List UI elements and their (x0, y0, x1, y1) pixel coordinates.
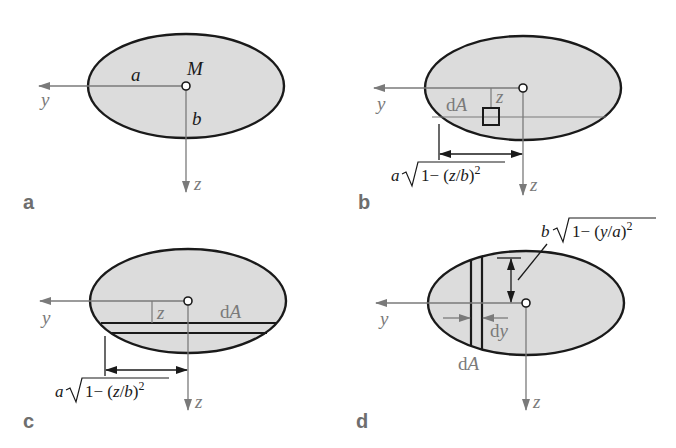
svg-text:1− (z/b)2: 1− (z/b)2 (421, 163, 481, 185)
y-axis-label: y (375, 93, 386, 114)
y-axis-label: y (40, 307, 51, 328)
panel-label-d: d (356, 410, 368, 432)
panel-d: dy dA y z b 1− (y/a)2 d (356, 218, 656, 432)
dy-label: dy (490, 320, 509, 341)
z-axis-label: z (532, 391, 541, 412)
svg-text:a: a (55, 382, 64, 401)
svg-text:1− (z/b)2: 1− (z/b)2 (85, 379, 145, 401)
panel-label-a: a (23, 191, 35, 213)
centroid-label: M (186, 58, 204, 79)
svg-text:a: a (391, 166, 400, 185)
half-width-formula: a 1− (z/b)2 (391, 162, 505, 186)
dA-label: dA (220, 301, 242, 322)
half-width-formula: a 1− (z/b)2 (55, 378, 169, 402)
half-height-formula: b 1− (y/a)2 (541, 218, 656, 242)
panel-c: z dA y z a 1− (z/b)2 c (23, 249, 286, 432)
y-axis-label: y (378, 308, 389, 329)
semi-axis-b-label: b (192, 108, 202, 129)
z-axis-label: z (529, 174, 538, 195)
svg-text:1− (y/a)2: 1− (y/a)2 (572, 219, 632, 241)
centroid-marker (184, 297, 192, 305)
z-offset-label: z (156, 302, 165, 323)
figure-canvas: a M b y z a dA z y z a 1− (z/b)2 b (0, 0, 676, 448)
centroid-marker (182, 82, 190, 90)
centroid-marker (522, 299, 530, 307)
dA-label: dA (458, 353, 480, 374)
panel-a: a M b y z a (23, 34, 284, 213)
z-offset-label: z (495, 86, 504, 107)
z-axis-label: z (194, 391, 203, 412)
z-axis-label: z (193, 173, 202, 194)
panel-b: dA z y z a 1− (z/b)2 b (358, 36, 621, 213)
semi-axis-a-label: a (131, 64, 141, 85)
y-axis-label: y (39, 89, 50, 110)
svg-text:b: b (541, 222, 550, 241)
panel-label-c: c (23, 410, 34, 432)
centroid-marker (519, 84, 527, 92)
panel-label-b: b (358, 191, 370, 213)
dA-label: dA (446, 94, 468, 115)
